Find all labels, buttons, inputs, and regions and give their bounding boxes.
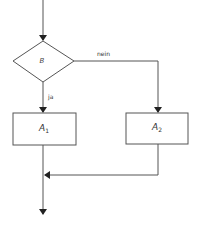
condition-label: B bbox=[40, 58, 45, 65]
action-a2-subscript: 2 bbox=[158, 126, 162, 133]
yes-branch-label: ja bbox=[48, 94, 53, 100]
flowchart-canvas bbox=[0, 0, 202, 232]
merge-arrow bbox=[45, 144, 158, 175]
no-branch-label: nein bbox=[97, 51, 110, 57]
no-branch-arrow bbox=[74, 61, 158, 112]
action-a1-label: A1 bbox=[39, 124, 49, 134]
action-a1-subscript: 1 bbox=[45, 127, 49, 134]
action-a2-label: A2 bbox=[152, 123, 162, 133]
